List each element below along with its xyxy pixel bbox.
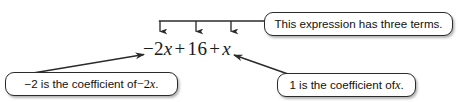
arrow-to-x-term bbox=[234, 55, 288, 74]
three-terms-bracket bbox=[160, 21, 266, 32]
callout-coefficient-negative-two: −2 is the coefficient of −2x. bbox=[5, 72, 178, 96]
callout-three-terms-text: This expression has three terms. bbox=[274, 18, 442, 30]
callout-coefficient-negative-two-term-number: −2 bbox=[137, 78, 150, 90]
callout-coefficient-one-period: . bbox=[400, 79, 403, 91]
expression-term-1-variable: x bbox=[164, 38, 173, 59]
expression-term-2: 16 bbox=[188, 38, 208, 59]
callout-coefficient-one: 1 is the coefficient of x. bbox=[277, 73, 416, 97]
callout-coefficient-negative-two-text: −2 is the coefficient of bbox=[24, 78, 136, 90]
figure-canvas: −2x+16+x This expression has three terms… bbox=[0, 0, 461, 102]
expression-operator-1: + bbox=[173, 38, 188, 59]
callout-three-terms: This expression has three terms. bbox=[264, 12, 453, 36]
arrow-to-neg-two-x bbox=[30, 55, 144, 74]
expression-operator-2: + bbox=[207, 38, 222, 59]
expression-term-1-coefficient: −2 bbox=[143, 38, 164, 59]
callout-coefficient-one-text: 1 is the coefficient of bbox=[289, 79, 394, 91]
expression-term-3-variable: x bbox=[222, 38, 231, 59]
callout-coefficient-negative-two-period: . bbox=[155, 78, 158, 90]
algebraic-expression: −2x+16+x bbox=[143, 38, 231, 60]
